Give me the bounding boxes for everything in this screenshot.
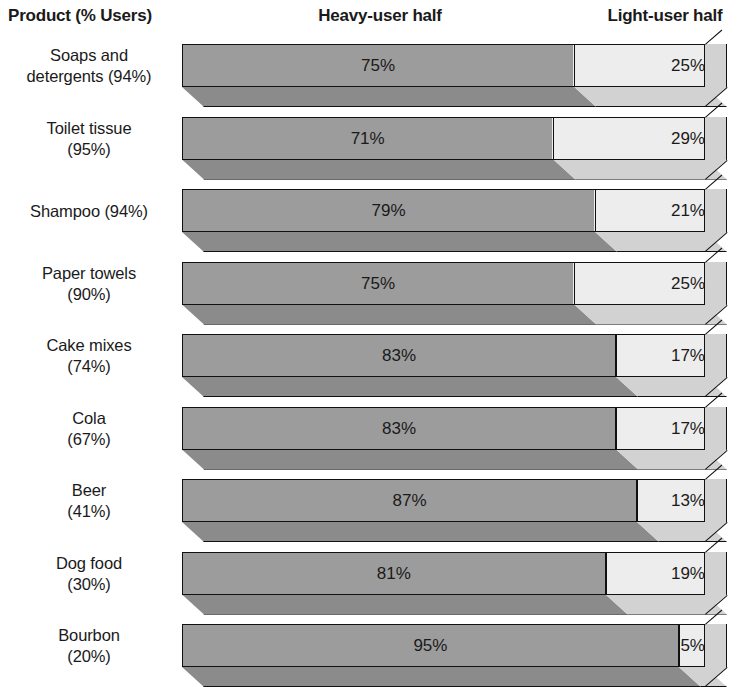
bar-value-heavy: 83% [182, 407, 616, 450]
bar-value-light: 17% [616, 407, 714, 450]
row-label-line: Paper towels [42, 263, 136, 284]
row-label-cake-mixes: Cake mixes(74%) [0, 334, 178, 378]
bar-value-heavy: 87% [182, 479, 637, 522]
row-label-paper-towels: Paper towels(90%) [0, 262, 178, 306]
bar-bottom-face [182, 667, 705, 686]
bar-bottom-face [182, 450, 705, 469]
bar-bottom-face [182, 305, 705, 324]
row-label-line: (20%) [67, 646, 111, 667]
bar-value-light: 21% [595, 189, 714, 232]
bar-bottom-face [182, 377, 705, 396]
product-column-header: Product (% Users) [8, 6, 152, 26]
stacked-bar-chart: Product (% Users) Heavy-user half Light-… [0, 0, 752, 687]
row-label-line: (30%) [67, 574, 111, 595]
chart-row: Dog food(30%)81%19% [0, 552, 752, 615]
bar-bottom-face-heavy [182, 305, 596, 325]
bar-value-heavy: 75% [182, 44, 574, 87]
chart-row: Cola(67%)83%17% [0, 407, 752, 470]
bar-bottom-face-light [553, 160, 727, 180]
bar-value-heavy: 79% [182, 189, 595, 232]
row-label-line: (74%) [67, 356, 111, 377]
row-label-line: Cake mixes [46, 335, 131, 356]
bar-3d: 95%5% [182, 624, 727, 687]
row-label-line: (41%) [67, 501, 111, 522]
row-label-soaps-and-detergents: Soaps anddetergents (94%) [0, 44, 178, 88]
bar-value-light: 25% [574, 262, 714, 305]
bar-value-light: 29% [553, 117, 714, 160]
row-label-toilet-tissue: Toilet tissue(95%) [0, 117, 178, 161]
bar-bottom-face-heavy [182, 160, 575, 180]
bar-bottom-face [182, 232, 705, 251]
bar-bottom-face-heavy [182, 522, 659, 542]
row-label-line: Shampoo (94%) [30, 201, 148, 222]
light-user-column-header: Light-user half [585, 6, 745, 26]
chart-row: Toilet tissue(95%)71%29% [0, 117, 752, 180]
bar-bottom-face-heavy [182, 87, 596, 107]
bar-value-light: 17% [616, 334, 714, 377]
bar-bottom-face-heavy [182, 232, 617, 252]
row-label-line: Toilet tissue [47, 118, 132, 139]
bar-value-light: 13% [637, 479, 714, 522]
bar-3d: 83%17% [182, 334, 727, 397]
row-label-line: Bourbon [58, 625, 120, 646]
row-label-line: (67%) [67, 429, 111, 450]
bar-value-light: 19% [606, 552, 714, 595]
bar-value-heavy: 81% [182, 552, 606, 595]
bar-3d: 71%29% [182, 117, 727, 180]
row-label-line: (90%) [67, 284, 111, 305]
row-label-line: (95%) [67, 139, 111, 160]
row-label-line: Soaps and [50, 45, 128, 66]
chart-row: Soaps anddetergents (94%)75%25% [0, 44, 752, 107]
row-label-shampoo: Shampoo (94%) [0, 189, 178, 233]
chart-header: Product (% Users) Heavy-user half Light-… [0, 0, 752, 34]
bar-bottom-face-heavy [182, 377, 638, 397]
bar-value-light: 25% [574, 44, 714, 87]
row-label-bourbon: Bourbon(20%) [0, 624, 178, 668]
chart-row: Beer(41%)87%13% [0, 479, 752, 542]
row-label-line: Cola [72, 408, 106, 429]
bar-3d: 87%13% [182, 479, 727, 542]
bar-bottom-face [182, 87, 705, 106]
bar-bottom-face-heavy [182, 667, 701, 687]
bar-bottom-face [182, 522, 705, 541]
bar-value-heavy: 75% [182, 262, 574, 305]
row-label-line: Beer [72, 480, 106, 501]
bar-value-heavy: 95% [182, 624, 679, 667]
chart-row: Cake mixes(74%)83%17% [0, 334, 752, 397]
bar-value-heavy: 83% [182, 334, 616, 377]
bar-bottom-face-heavy [182, 595, 628, 615]
bar-3d: 75%25% [182, 44, 727, 107]
heavy-user-column-header: Heavy-user half [280, 6, 480, 26]
bar-3d: 83%17% [182, 407, 727, 470]
row-label-cola: Cola(67%) [0, 407, 178, 451]
bar-bottom-face-heavy [182, 450, 638, 470]
bar-bottom-face [182, 595, 705, 614]
bar-value-light: 5% [679, 624, 714, 667]
bar-3d: 79%21% [182, 189, 727, 252]
chart-row: Bourbon(20%)95%5% [0, 624, 752, 687]
chart-row: Shampoo (94%)79%21% [0, 189, 752, 252]
bar-value-heavy: 71% [182, 117, 553, 160]
bar-3d: 75%25% [182, 262, 727, 325]
bar-3d: 81%19% [182, 552, 727, 615]
row-label-line: Dog food [56, 553, 122, 574]
chart-row: Paper towels(90%)75%25% [0, 262, 752, 325]
row-label-beer: Beer(41%) [0, 479, 178, 523]
row-label-line: detergents (94%) [27, 66, 152, 87]
bar-bottom-face [182, 160, 705, 179]
row-label-dog-food: Dog food(30%) [0, 552, 178, 596]
